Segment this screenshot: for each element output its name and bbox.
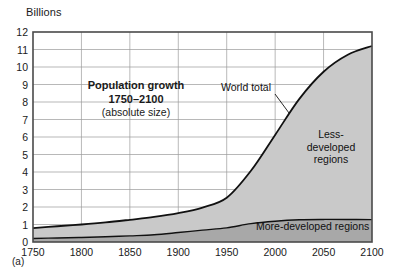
x-tick-1950: 1950 bbox=[204, 247, 250, 258]
panel-label: (a) bbox=[12, 256, 24, 267]
figure-panel-a: Billions 0123456789101112 17501800185019… bbox=[0, 0, 408, 277]
annotation-less-developed-line2: developed bbox=[296, 141, 366, 154]
y-tick-2: 2 bbox=[4, 202, 28, 212]
chart-title-line1: Population growth bbox=[72, 79, 200, 93]
y-axis-unit-label: Billions bbox=[26, 6, 62, 18]
x-tick-2050: 2050 bbox=[301, 247, 347, 258]
chart-title-line2: 1750–2100 bbox=[72, 93, 200, 107]
x-tick-1800: 1800 bbox=[58, 247, 104, 258]
y-tick-9: 9 bbox=[4, 80, 28, 90]
chart-title-line3: (absolute size) bbox=[72, 106, 200, 120]
x-tick-1900: 1900 bbox=[155, 247, 201, 258]
x-tick-2100: 2100 bbox=[349, 247, 395, 258]
annotation-more-developed-regions: More-developed regions bbox=[256, 220, 369, 232]
y-tick-6: 6 bbox=[4, 132, 28, 142]
annotation-less-developed-regions: Less- developed regions bbox=[296, 128, 366, 166]
x-tick-1850: 1850 bbox=[107, 247, 153, 258]
y-tick-7: 7 bbox=[4, 115, 28, 125]
x-tick-2000: 2000 bbox=[252, 247, 298, 258]
annotation-less-developed-line3: regions bbox=[296, 153, 366, 166]
y-tick-4: 4 bbox=[4, 167, 28, 177]
y-tick-5: 5 bbox=[4, 150, 28, 160]
y-tick-10: 10 bbox=[4, 62, 28, 72]
chart-title-block: Population growth 1750–2100 (absolute si… bbox=[72, 79, 200, 120]
y-tick-1: 1 bbox=[4, 220, 28, 230]
y-tick-3: 3 bbox=[4, 185, 28, 195]
y-tick-8: 8 bbox=[4, 97, 28, 107]
y-tick-11: 11 bbox=[4, 45, 28, 55]
y-tick-12: 12 bbox=[4, 27, 28, 37]
annotation-less-developed-line1: Less- bbox=[296, 128, 366, 141]
annotation-world-total: World total bbox=[221, 81, 271, 93]
